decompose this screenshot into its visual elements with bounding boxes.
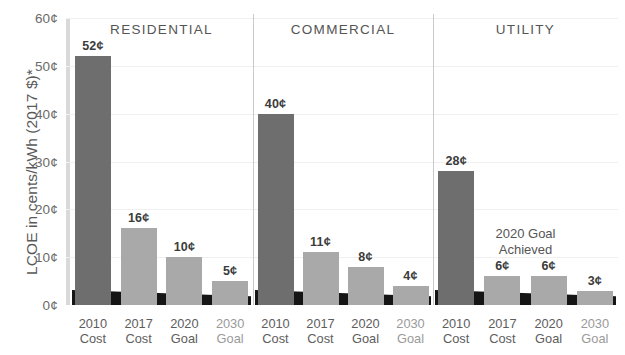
goal-achieved-annotation: 2020 GoalAchieved — [466, 226, 586, 257]
bar-value-label: 28¢ — [416, 154, 496, 168]
panel-divider — [253, 14, 254, 305]
panel-title-residential: RESIDENTIAL — [70, 22, 253, 37]
y-tick-label: 10¢ — [12, 250, 58, 265]
panel-title-utility: UTILITY — [433, 22, 618, 37]
x-axis-label: 2030Goal — [555, 316, 625, 346]
annotation-line-2: Achieved — [466, 242, 586, 258]
gridline — [66, 114, 618, 115]
gridline — [66, 66, 618, 67]
x-axis-label-kind: Goal — [555, 331, 625, 346]
annotation-line-1: 2020 Goal — [466, 226, 586, 242]
bar-value-label: 40¢ — [236, 97, 316, 111]
y-tick-label: 60¢ — [12, 11, 58, 26]
x-axis-label-year: 2030 — [555, 316, 625, 331]
bar-value-label: 52¢ — [53, 39, 133, 53]
y-tick-label: 0¢ — [12, 298, 58, 313]
y-tick-label: 20¢ — [12, 202, 58, 217]
bar-value-label: 6¢ — [509, 259, 589, 273]
bar[interactable] — [393, 286, 429, 305]
bar-value-label: 8¢ — [326, 250, 406, 264]
panel-title-commercial: COMMERCIAL — [253, 22, 433, 37]
bar-value-label: 16¢ — [99, 211, 179, 225]
y-axis-ticks: 60¢50¢40¢30¢20¢10¢0¢ — [8, 18, 58, 305]
bar-value-label: 4¢ — [371, 269, 451, 283]
bar-value-label: 3¢ — [555, 274, 625, 288]
y-tick-label: 30¢ — [12, 154, 58, 169]
bar-value-label: 5¢ — [190, 264, 270, 278]
bar-value-label: 10¢ — [144, 240, 224, 254]
bar[interactable] — [212, 281, 248, 305]
bar-chart: LCOE in cents/kWh (2017 $)* 60¢50¢40¢30¢… — [0, 0, 625, 355]
y-tick-label: 40¢ — [12, 106, 58, 121]
bar-value-label: 11¢ — [281, 235, 361, 249]
bar[interactable] — [484, 276, 520, 305]
bar[interactable] — [75, 56, 111, 305]
bar[interactable] — [577, 291, 613, 305]
gridline — [66, 18, 618, 19]
gridline — [66, 209, 618, 210]
y-tick-label: 50¢ — [12, 58, 58, 73]
gridline — [66, 162, 618, 163]
